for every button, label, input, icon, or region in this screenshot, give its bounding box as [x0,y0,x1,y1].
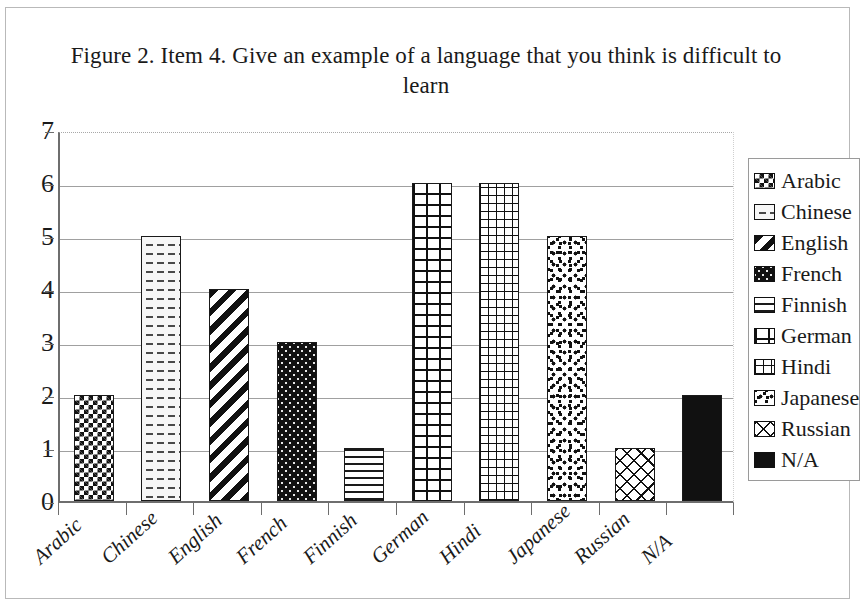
x-label-german: German [366,505,434,570]
legend-item-chinese[interactable]: Chinese [754,196,859,227]
x-label-finnish: Finnish [298,508,362,570]
y-tick-label: 3 [20,330,54,356]
legend-item-japanese[interactable]: Japanese [754,382,859,413]
bar-english [209,289,249,501]
y-tick-label: 1 [20,436,54,462]
bar-japanese [547,236,587,501]
legend-swatch-icon [754,328,775,344]
y-tick-label: 5 [20,224,54,250]
y-tick-label: 7 [20,118,54,144]
y-tick-label: 6 [20,171,54,197]
legend-item-label: French [781,263,842,285]
legend-item-french[interactable]: French [754,258,859,289]
legend-item-label: Japanese [781,387,859,409]
x-label-english: English [163,508,227,570]
x-label-russian: Russian [569,506,635,569]
legend-swatch-icon [754,204,775,220]
legend-item-russian[interactable]: Russian [754,413,859,444]
legend-item-english[interactable]: English [754,227,859,258]
legend-item-german[interactable]: German [754,320,859,351]
legend-swatch-icon [754,266,775,282]
bar-arabic [74,395,114,501]
legend-item-arabic[interactable]: Arabic [754,165,859,196]
x-label-chinese: Chinese [96,506,163,570]
legend-item-label: Finnish [781,294,847,316]
legend-item-label: Hindi [781,356,831,378]
legend-swatch-icon [754,359,775,375]
x-label-arabic: Arabic [28,513,87,570]
bar-n-a [682,395,722,501]
y-tick-mark [45,450,54,451]
legend-item-finnish[interactable]: Finnish [754,289,859,320]
y-tick-mark [45,291,54,292]
x-label-n-a: N/A [636,529,677,569]
plot-area [58,132,734,503]
x-axis-labels: ArabicChineseEnglishFrenchFinnishGermanH… [6,503,766,603]
legend-item-label: English [781,232,848,254]
bar-chinese [141,236,181,501]
x-label-japanese: Japanese [501,499,576,570]
legend: ArabicChineseEnglishFrenchFinnishGermanH… [748,158,860,481]
chart-title: Figure 2. Item 4. Give an example of a l… [66,41,786,101]
x-label-french: French [231,511,292,570]
bar-french [277,342,317,501]
legend-swatch-icon [754,452,775,468]
x-label-hindi: Hindi [434,519,486,570]
legend-swatch-icon [754,235,775,251]
legend-swatch-icon [754,297,775,313]
y-tick-label: 2 [20,383,54,409]
bar-russian [615,448,655,501]
legend-item-n-a[interactable]: N/A [754,444,859,475]
y-tick-label: 4 [20,277,54,303]
bar-hindi [479,183,519,501]
legend-swatch-icon [754,421,775,437]
legend-item-label: Russian [781,418,851,440]
bar-finnish [344,448,384,501]
y-tick-mark [45,132,54,133]
legend-swatch-icon [754,390,775,406]
bar-german [412,183,452,501]
legend-item-label: German [781,325,852,347]
gridline [60,186,733,187]
y-tick-mark [45,238,54,239]
legend-swatch-icon [754,173,775,189]
legend-item-label: N/A [781,449,819,471]
y-tick-mark [45,185,54,186]
y-tick-mark [45,344,54,345]
legend-item-label: Arabic [781,170,841,192]
figure-frame: Figure 2. Item 4. Give an example of a l… [5,7,850,599]
legend-item-hindi[interactable]: Hindi [754,351,859,382]
y-axis: 01234567 [6,132,54,503]
legend-item-label: Chinese [781,201,852,223]
y-tick-mark [45,397,54,398]
